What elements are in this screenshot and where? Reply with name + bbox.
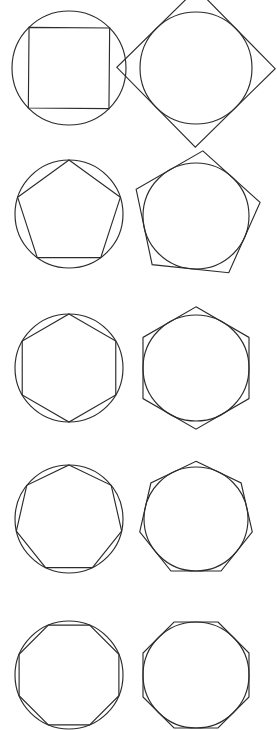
figure-inscribed-square: [12, 11, 126, 125]
figure-canvas: [0, 0, 277, 730]
figure-inscribed-pentagon: [15, 160, 123, 268]
polygon-6-gon-inscribed: [22, 314, 116, 422]
figure-circumscribed-hexagon: [143, 307, 249, 429]
figure-circumscribed-square: [117, 0, 275, 147]
circle-inscribed-heptagon: [15, 465, 123, 573]
circle-inscribed-hexagon: [15, 314, 123, 422]
polygon-5-gon-circumscribed: [136, 151, 260, 273]
polygon-6-gon-circumscribed: [143, 307, 249, 429]
circle-inscribed-pentagon: [15, 160, 123, 268]
figure-inscribed-hexagon: [15, 314, 123, 422]
figure-circumscribed-octagon: [143, 622, 249, 728]
polygon-8-gon-inscribed: [19, 625, 119, 725]
circle-circumscribed-pentagon: [143, 163, 249, 269]
polygon-8-gon-circumscribed: [143, 622, 249, 728]
geometry-figure-sheet: [0, 0, 277, 730]
polygon-7-gon-inscribed: [16, 465, 121, 568]
figure-inscribed-heptagon: [15, 465, 123, 573]
polygon-7-gon-circumscribed: [140, 461, 253, 571]
polygon-4-gon-inscribed: [28, 27, 109, 108]
circle-circumscribed-heptagon: [144, 467, 248, 571]
circle-inscribed-octagon: [15, 621, 123, 729]
polygon-5-gon-inscribed: [18, 160, 121, 258]
figure-inscribed-octagon: [15, 621, 123, 729]
figure-circumscribed-pentagon: [136, 151, 260, 273]
figure-circumscribed-heptagon: [140, 461, 253, 571]
circle-circumscribed-hexagon: [143, 315, 249, 421]
